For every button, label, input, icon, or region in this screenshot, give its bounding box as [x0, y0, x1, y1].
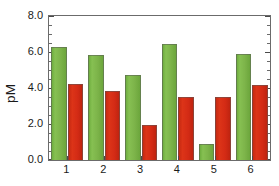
- y-axis-minor-tick: [49, 25, 52, 26]
- bar-red-4: [178, 97, 194, 160]
- x-axis-tick-labels: 123456: [48, 163, 271, 183]
- x-axis-major-tick: [178, 156, 179, 160]
- x-axis-major-tick: [215, 156, 216, 160]
- bar-green-4: [162, 44, 178, 160]
- bar-red-5: [215, 97, 231, 160]
- y-axis-tick-label: 0.0: [28, 153, 43, 165]
- y-axis-minor-tick: [267, 34, 270, 35]
- y-axis-minor-tick: [49, 34, 52, 35]
- y-axis-tick-label: 2.0: [28, 117, 43, 129]
- y-axis-tick-label: 4.0: [28, 81, 43, 93]
- bar-chart: pM 0.02.04.06.08.0 123456: [0, 0, 279, 186]
- y-axis-major-tick: [265, 16, 270, 17]
- y-axis-minor-tick: [267, 61, 270, 62]
- y-axis-tick-labels: 0.02.04.06.08.0: [14, 0, 45, 186]
- bar-red-3: [142, 125, 158, 160]
- y-axis-minor-tick: [267, 25, 270, 26]
- plot-area: [48, 15, 271, 161]
- x-axis-tick-label: 6: [248, 163, 254, 175]
- bar-green-5: [199, 144, 215, 160]
- bar-red-6: [252, 85, 268, 160]
- bar-green-3: [125, 75, 141, 161]
- bar-red-1: [68, 84, 84, 161]
- x-axis-major-tick: [67, 156, 68, 160]
- y-axis-tick-label: 8.0: [28, 9, 43, 21]
- x-axis-tick-label: 1: [63, 163, 69, 175]
- y-axis-minor-tick: [267, 79, 270, 80]
- y-axis-minor-tick: [267, 70, 270, 71]
- y-axis-major-tick: [49, 16, 54, 17]
- x-axis-major-tick: [252, 156, 253, 160]
- plot-inner-surface: [49, 16, 270, 160]
- y-axis-tick-label: 6.0: [28, 45, 43, 57]
- bar-green-2: [88, 55, 104, 160]
- y-axis-minor-tick: [49, 43, 52, 44]
- bar-green-1: [51, 47, 67, 160]
- x-axis-tick-label: 2: [100, 163, 106, 175]
- bar-red-2: [105, 91, 121, 160]
- y-axis-major-tick: [265, 52, 270, 53]
- x-axis-tick-label: 5: [211, 163, 217, 175]
- x-axis-tick-label: 3: [137, 163, 143, 175]
- x-axis-tick-label: 4: [174, 163, 180, 175]
- bar-green-6: [236, 54, 252, 160]
- x-axis-major-tick: [141, 156, 142, 160]
- y-axis-minor-tick: [267, 43, 270, 44]
- x-axis-major-tick: [104, 156, 105, 160]
